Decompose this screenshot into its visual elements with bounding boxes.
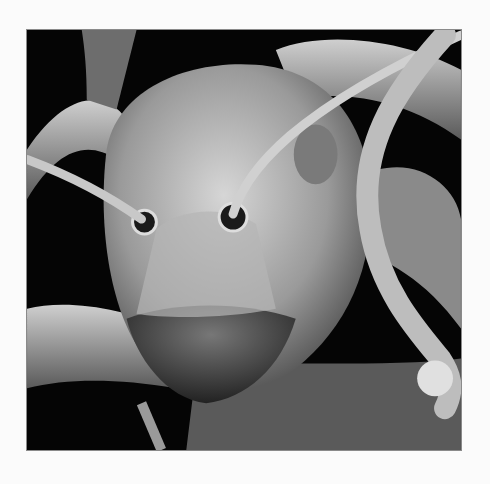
compound-eye: [294, 125, 338, 185]
leg-top-left: [82, 30, 137, 110]
leg-bottom: [141, 403, 161, 450]
ant-sem-photo: [26, 29, 462, 451]
ant-head-illustration: [27, 30, 461, 450]
antenna-tip: [417, 360, 453, 396]
